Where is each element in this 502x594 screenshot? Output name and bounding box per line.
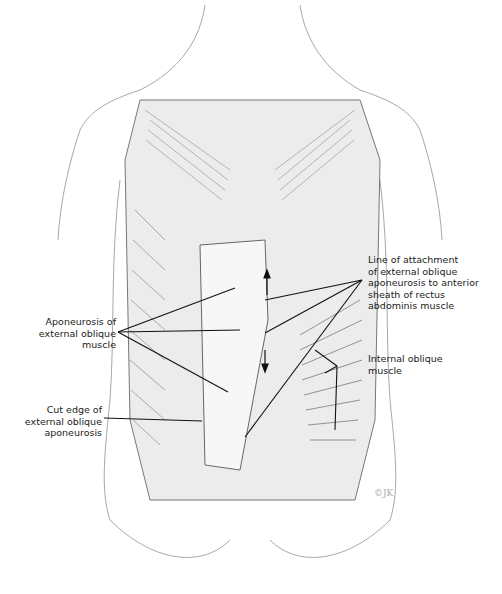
artist-signature: ©JK (374, 488, 393, 498)
dissection-window (125, 100, 380, 500)
label-line-of-attachment: Line of attachment of external oblique a… (368, 254, 502, 312)
label-aponeurosis-external-oblique: Aponeurosis of external oblique muscle (20, 316, 116, 351)
label-cut-edge: Cut edge of external oblique aponeurosis (8, 404, 102, 439)
label-internal-oblique: Internal oblique muscle (368, 353, 488, 376)
